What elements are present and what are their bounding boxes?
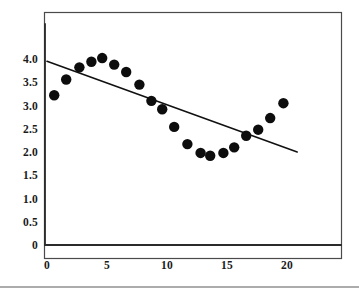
y-tick-label: 3.5: [23, 76, 38, 88]
data-point: [134, 79, 144, 89]
x-tick-label: 0: [44, 259, 50, 271]
y-tick-label: 0: [32, 239, 38, 251]
data-point: [205, 151, 215, 161]
data-point: [278, 98, 288, 108]
data-point: [265, 113, 275, 123]
data-point: [241, 131, 251, 141]
scatter-plot: 00.51.01.52.02.53.03.54.0 05101520: [0, 0, 359, 296]
x-tick-label: 10: [161, 259, 173, 271]
data-point: [182, 139, 192, 149]
data-point: [195, 148, 205, 158]
data-point: [157, 104, 167, 114]
data-point: [61, 74, 71, 84]
x-tick-label: 5: [104, 259, 110, 271]
data-point: [86, 57, 96, 67]
figure-background: [0, 0, 359, 296]
x-tick-label: 20: [281, 259, 293, 271]
data-point: [121, 67, 131, 77]
x-tick-label: 15: [221, 259, 233, 271]
data-point: [218, 148, 228, 158]
y-tick-label: 4.0: [23, 53, 38, 65]
data-point: [169, 122, 179, 132]
data-point: [146, 96, 156, 106]
data-point: [253, 124, 263, 134]
data-point: [229, 142, 239, 152]
y-tick-label: 1.5: [23, 169, 38, 181]
data-point: [109, 59, 119, 69]
data-point: [49, 90, 59, 100]
y-tick-label: 2.0: [23, 146, 38, 158]
y-tick-label: 2.5: [23, 123, 38, 135]
data-point: [74, 62, 84, 72]
y-axis: 00.51.01.52.02.53.03.54.0: [23, 53, 38, 251]
y-tick-label: 3.0: [23, 100, 38, 112]
data-point: [97, 53, 107, 63]
y-tick-label: 0.5: [23, 216, 38, 228]
chart-figure: 00.51.01.52.02.53.03.54.0 05101520: [0, 0, 359, 296]
y-tick-label: 1.0: [23, 193, 38, 205]
